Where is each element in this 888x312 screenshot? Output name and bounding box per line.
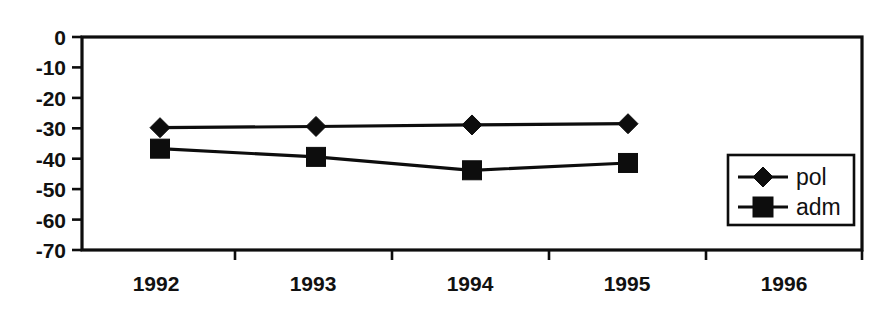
- y-tick-label-minus60: -60: [36, 209, 66, 232]
- y-tick-label-minus10: -10: [36, 56, 66, 79]
- y-tick-label-minus70: -70: [36, 239, 66, 262]
- square-marker: [307, 147, 326, 166]
- x-axis-tick-labels: 1992 1993 1994 1995 1996: [133, 272, 808, 295]
- legend-label-pol: pol: [796, 164, 827, 190]
- y-tick-label-minus20: -20: [36, 87, 66, 110]
- line-chart: 0 -10 -20 -30 -40 -50 -60 -70 1992 1993 …: [0, 0, 888, 312]
- y-tick-label-minus40: -40: [36, 148, 66, 171]
- x-tick-label-1992: 1992: [133, 272, 180, 295]
- y-tick-label-minus50: -50: [36, 178, 66, 201]
- y-axis-tick-labels: 0 -10 -20 -30 -40 -50 -60 -70: [36, 26, 66, 262]
- y-tick-label-minus30: -30: [36, 117, 66, 140]
- chart-legend: pol adm: [728, 155, 854, 225]
- square-marker: [151, 139, 170, 158]
- legend-label-adm: adm: [796, 194, 841, 220]
- x-tick-label-1996: 1996: [761, 272, 808, 295]
- y-tick-label-0: 0: [54, 26, 66, 49]
- square-marker: [463, 161, 482, 180]
- x-tick-label-1995: 1995: [604, 272, 651, 295]
- chart-page: 0 -10 -20 -30 -40 -50 -60 -70 1992 1993 …: [0, 0, 888, 312]
- x-tick-label-1994: 1994: [447, 272, 494, 295]
- square-marker: [753, 197, 773, 217]
- square-marker: [619, 153, 638, 172]
- x-tick-label-1993: 1993: [290, 272, 337, 295]
